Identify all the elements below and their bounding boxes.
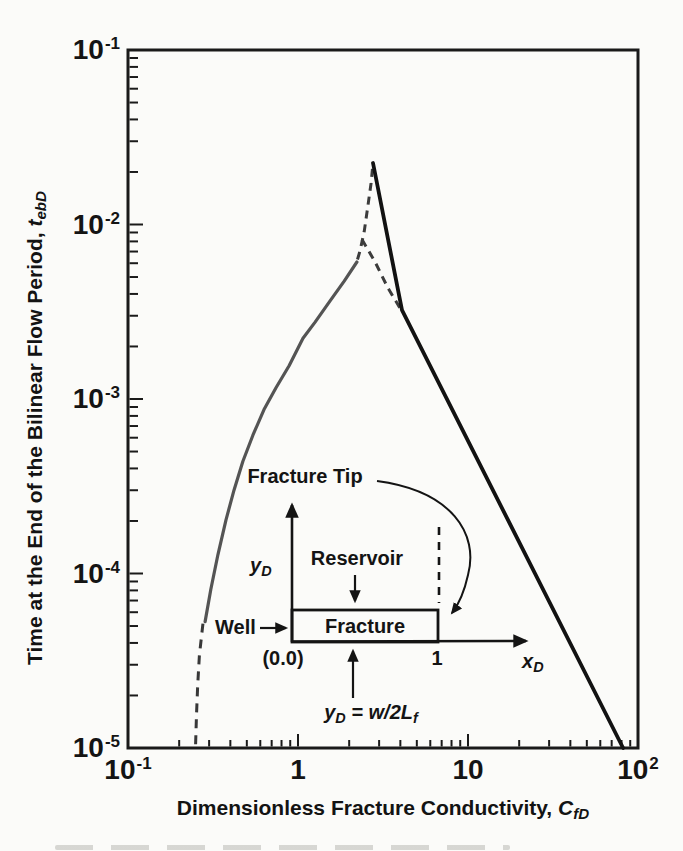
x-tick-label-1: 1 (290, 755, 306, 785)
inset-tip-coordinate-label: 1 (431, 647, 442, 670)
inset-fracture-label: Fracture (325, 615, 405, 638)
y-tick-label-10e-2: 10-2 (73, 210, 120, 244)
y-axis-title: Time at the End of the Bilinear Flow Per… (23, 78, 53, 778)
inset-yd-axis-label: yD (250, 554, 272, 577)
y-tick-label-10e-1: 10-1 (73, 35, 120, 69)
x-tick-label-10e2: 102 (617, 755, 659, 789)
x-axis-title: Dimensionless Fracture Conductivity, CfD (128, 796, 638, 820)
figure-canvas: 10-111010210-110-210-310-410-5 Time at t… (0, 0, 683, 851)
inset-xd-axis-label: xD (522, 650, 544, 673)
y-tick-label-10e-3: 10-3 (73, 384, 120, 418)
y-tick-label-10e-4: 10-4 (73, 559, 120, 593)
cropped-caption-remnant (55, 845, 510, 850)
y-tick-label-10e-5: 10-5 (73, 733, 120, 767)
right-branch-solid (373, 163, 623, 748)
curves-layer (196, 163, 623, 748)
inset-fracture-tip-label: Fracture Tip (247, 465, 362, 488)
inset-halfwidth-equation: yD = w/2Lf (324, 701, 418, 724)
inset-well-label: Well (215, 616, 256, 639)
left-branch-dashed-extension (196, 623, 203, 744)
inset-origin-label: (0.0) (262, 647, 303, 670)
inset-reservoir-label: Reservoir (311, 547, 403, 570)
x-tick-label-10: 10 (452, 755, 483, 785)
